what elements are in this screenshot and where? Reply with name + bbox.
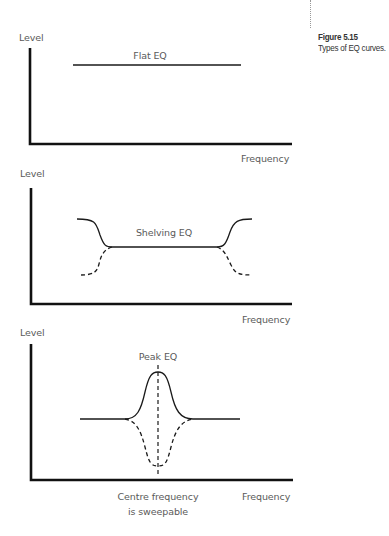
panel-shelving-eq (31, 188, 292, 304)
peak-cut-curve (125, 419, 193, 466)
panel-peak-eq (31, 344, 293, 480)
shelving-cut-curve-left (80, 247, 112, 275)
centre-frequency-annotation-1: Centre frequency (118, 492, 199, 502)
centre-frequency-annotation-2: is sweepable (128, 507, 188, 517)
x-axis-label-flat: Frequency (241, 154, 289, 164)
shelving-cut-curve-right (217, 247, 252, 275)
panel-flat-eq (30, 48, 292, 144)
peak-boost-curve (80, 372, 240, 419)
eq-diagram (0, 0, 389, 536)
title-shelving-eq: Shelving EQ (136, 228, 192, 238)
axes-flat (30, 48, 292, 144)
y-axis-label-flat: Level (19, 33, 44, 43)
axes-shelving (31, 188, 292, 304)
x-axis-label-shelving: Frequency (242, 315, 290, 325)
x-axis-label-peak: Frequency (242, 492, 290, 502)
y-axis-label-shelving: Level (20, 169, 45, 179)
y-axis-label-peak: Level (20, 328, 45, 338)
title-peak-eq: Peak EQ (139, 352, 177, 362)
title-flat-eq: Flat EQ (133, 51, 166, 61)
axes-peak (31, 344, 293, 480)
